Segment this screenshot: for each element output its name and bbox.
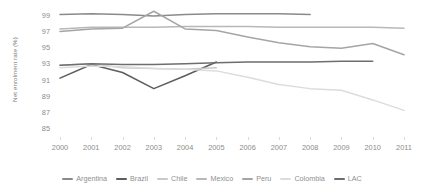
y-tick-label: 93 [28, 60, 50, 67]
legend-swatch-icon [196, 178, 207, 181]
x-tick-mark [60, 137, 61, 140]
legend-item-argentina[interactable]: Argentina [62, 175, 107, 182]
y-tick-label: 85 [28, 125, 50, 132]
legend-label: LAC [348, 175, 362, 182]
y-tick-label: 89 [28, 93, 50, 100]
x-tick-mark [154, 137, 155, 140]
legend-label: Mexico [210, 175, 233, 182]
x-tick-mark [185, 137, 186, 140]
legend-swatch-icon [62, 178, 73, 181]
legend-item-brazil[interactable]: Brazil [116, 175, 148, 182]
series-lines [56, 8, 408, 137]
plot-area [56, 8, 408, 137]
legend-item-peru[interactable]: Peru [242, 175, 271, 182]
legend-swatch-icon [280, 178, 291, 181]
x-tick-mark [91, 137, 92, 140]
y-tick-label: 91 [28, 77, 50, 84]
x-tick-mark [279, 137, 280, 140]
legend-item-chile[interactable]: Chile [157, 175, 187, 182]
legend-item-mexico[interactable]: Mexico [196, 175, 233, 182]
x-axis-tick-marks [56, 137, 408, 141]
y-tick-label: 87 [28, 109, 50, 116]
x-tick-mark [373, 137, 374, 140]
series-line-peru [60, 11, 404, 55]
x-tick-mark [123, 137, 124, 140]
x-axis-tick-labels: 2000200120022003200420052006200720082009… [0, 144, 424, 158]
y-axis-title: Net enrolment rate (%) [11, 15, 18, 125]
legend-item-lac[interactable]: LAC [334, 175, 362, 182]
y-tick-label: 97 [28, 28, 50, 35]
series-line-argentina [60, 14, 310, 16]
net-enrolment-rate-line-chart: Net enrolment rate (%) 9997959391898785 … [0, 0, 424, 193]
legend-item-colombia[interactable]: Colombia [280, 175, 324, 182]
y-tick-label: 95 [28, 44, 50, 51]
legend-label: Colombia [294, 175, 324, 182]
chart-legend: ArgentinaBrazilChileMexicoPeruColombiaLA… [0, 172, 424, 186]
legend-label: Peru [256, 175, 271, 182]
series-line-colombia [60, 66, 404, 110]
x-tick-mark [216, 137, 217, 140]
x-tick-mark [310, 137, 311, 140]
x-tick-mark [341, 137, 342, 140]
legend-swatch-icon [157, 178, 168, 181]
x-tick-mark [404, 137, 405, 140]
legend-label: Brazil [130, 175, 148, 182]
legend-label: Chile [171, 175, 187, 182]
y-tick-label: 99 [28, 12, 50, 19]
x-tick-label: 2011 [384, 144, 424, 151]
legend-label: Argentina [76, 175, 107, 182]
legend-swatch-icon [116, 178, 127, 181]
legend-swatch-icon [334, 178, 345, 181]
x-tick-mark [248, 137, 249, 140]
y-axis-tick-labels: 9997959391898785 [28, 0, 50, 140]
legend-swatch-icon [242, 178, 253, 181]
